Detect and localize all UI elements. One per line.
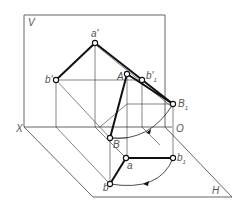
line-a-b <box>110 158 126 184</box>
object-lines <box>56 43 173 184</box>
point-b1-prime <box>139 77 144 82</box>
axis-o-label: O <box>176 123 184 134</box>
label-A: A <box>116 71 124 82</box>
label-B: B <box>113 139 120 150</box>
rotation-arc-upper <box>110 104 173 138</box>
point-B <box>107 135 112 140</box>
label-a-prime: a' <box>91 28 100 39</box>
line-a-prime-B1 <box>95 43 173 104</box>
point-b-prime <box>53 77 58 82</box>
projection-diagram: V H X O <box>0 0 249 209</box>
label-a: a <box>127 160 133 171</box>
h-plane-label: H <box>212 185 220 196</box>
label-b1-prime: b'1 <box>146 70 157 83</box>
label-B1: B1 <box>178 98 188 111</box>
line-a-prime-b-prime <box>56 43 95 80</box>
axis-x-label: X <box>15 123 23 134</box>
rotation-arc-lower <box>110 158 173 186</box>
point-a-prime <box>92 40 97 45</box>
point-b1 <box>170 155 175 160</box>
label-b-prime: b' <box>45 74 54 85</box>
points <box>53 40 175 186</box>
label-b: b <box>103 182 109 193</box>
v-plane-label: V <box>28 17 36 28</box>
label-b1: b1 <box>177 152 186 165</box>
point-A <box>124 71 129 76</box>
point-B1 <box>170 101 175 106</box>
